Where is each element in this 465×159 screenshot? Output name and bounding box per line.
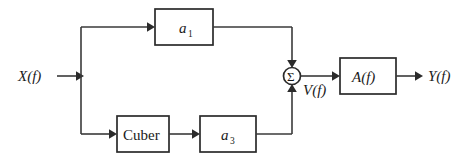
arrowhead-input [76,71,84,81]
block-a3-label: a [221,127,229,143]
block-cuber-label: Cuber [123,127,160,143]
arrowhead-output [415,71,423,81]
block-diagram-canvas: X(f) a 1 Cuber a 3 [0,0,465,159]
block-a3-subscript: 3 [230,136,235,146]
arrowhead-into-a3 [192,129,200,139]
block-diagram-figure: X(f) a 1 Cuber a 3 [0,0,465,159]
arrowhead-into-af [332,71,340,81]
arrowhead-into-cuber [109,129,117,139]
input-signal-label: X(f) [17,68,41,85]
block-a1-subscript: 1 [188,29,193,39]
output-signal-label: Y(f) [428,68,451,85]
arrowhead-into-a1 [147,22,155,32]
intermediate-signal-label: V(f) [303,82,326,99]
sigma-icon: Σ [287,69,295,84]
block-af-label: A(f) [351,69,375,86]
block-a1-label: a [179,20,187,36]
